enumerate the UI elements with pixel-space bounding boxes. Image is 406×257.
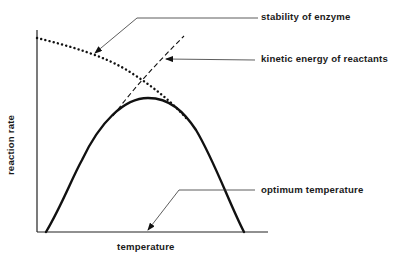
kinetic-leader-line: [166, 59, 255, 60]
y-axis-label: reaction rate: [5, 115, 16, 175]
reaction-rate-curve: [46, 98, 244, 232]
optimum-temperature-label: optimum temperature: [261, 184, 363, 195]
stability-leader-line: [95, 18, 258, 53]
x-axis-label: temperature: [117, 241, 175, 252]
enzyme-temperature-diagram: [0, 0, 406, 257]
kinetic-energy-line: [113, 36, 184, 116]
stability-curve: [37, 38, 186, 118]
kinetic-energy-label: kinetic energy of reactants: [261, 53, 388, 64]
stability-label: stability of enzyme: [261, 11, 351, 22]
